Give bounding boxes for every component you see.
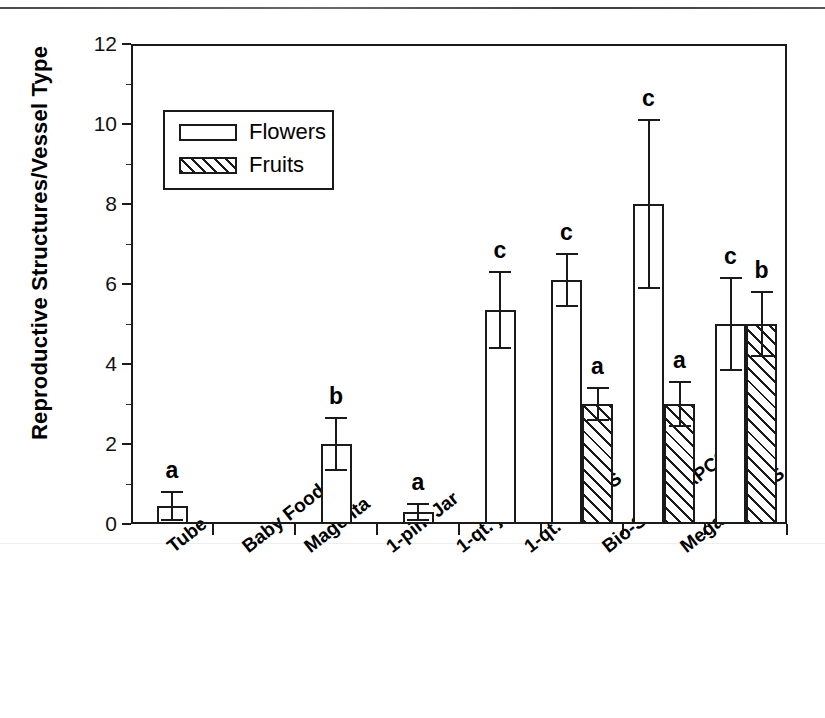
error-bar-cap-lower: [587, 419, 609, 421]
error-bar-cap-upper: [556, 253, 578, 255]
x-axis-tick: [294, 524, 296, 535]
y-axis-tick-label: 8: [83, 193, 117, 214]
y-axis-tick-label: 4: [83, 353, 117, 374]
y-axis-tick: [122, 443, 131, 445]
y-axis-tick-label: 10: [83, 113, 117, 134]
y-axis-tick: [122, 523, 131, 525]
legend-swatch-fruits: [179, 157, 237, 174]
error-bar-stem: [648, 120, 650, 288]
x-axis-tick: [212, 524, 214, 535]
y-axis-tick-label: 6: [83, 273, 117, 294]
error-bar-cap-upper: [587, 387, 609, 389]
error-bar-cap-upper: [161, 491, 183, 493]
error-bar-cap-upper: [489, 271, 511, 273]
error-bar-cap-lower: [638, 287, 660, 289]
scan-artifact-top-line: [0, 7, 825, 9]
chart-legend: Flowers Fruits: [163, 110, 334, 190]
y-axis-tick-label: 2: [83, 433, 117, 454]
significance-letter: b: [747, 259, 777, 282]
y-axis-title: Reproductive Structures/Vessel Type: [27, 0, 53, 493]
significance-letter: a: [403, 471, 433, 494]
error-bar-cap-upper: [720, 277, 742, 279]
y-axis-tick: [122, 123, 131, 125]
legend-label-flowers: Flowers: [249, 121, 326, 143]
significance-letter: c: [552, 221, 582, 244]
legend-label-fruits: Fruits: [249, 154, 304, 176]
significance-letter: c: [634, 87, 664, 110]
error-bar-stem: [566, 254, 568, 306]
error-bar-stem: [171, 492, 173, 520]
error-bar-cap-upper: [751, 291, 773, 293]
error-bar-cap-lower: [489, 347, 511, 349]
error-bar-stem: [417, 504, 419, 520]
error-bar-cap-lower: [720, 369, 742, 371]
y-axis-tick: [122, 283, 131, 285]
legend-item-flowers: Flowers: [179, 121, 326, 143]
x-axis-tick: [376, 524, 378, 535]
y-axis-tick-label: 0: [83, 513, 117, 534]
error-bar-cap-lower: [751, 355, 773, 357]
error-bar-stem: [679, 382, 681, 426]
significance-letter: c: [716, 245, 746, 268]
y-axis-tick: [122, 363, 131, 365]
error-bar-stem: [499, 272, 501, 348]
error-bar-stem: [730, 278, 732, 370]
y-axis-tick: [122, 43, 131, 45]
y-axis-tick: [122, 203, 131, 205]
error-bar-stem: [335, 418, 337, 470]
significance-letter: a: [665, 349, 695, 372]
error-bar-cap-lower: [325, 469, 347, 471]
error-bar-cap-upper: [325, 417, 347, 419]
bar-fruits-1-qt-w-apcs: [582, 404, 613, 524]
error-bar-cap-upper: [407, 503, 429, 505]
error-bar-stem: [761, 292, 763, 356]
legend-item-fruits: Fruits: [179, 154, 304, 176]
error-bar-cap-lower: [407, 519, 429, 521]
y-axis-tick-label: 12: [83, 33, 117, 54]
legend-swatch-flowers: [179, 124, 237, 141]
significance-letter: b: [321, 385, 351, 408]
significance-letter: a: [583, 355, 613, 378]
error-bar-cap-upper: [669, 381, 691, 383]
error-bar-cap-lower: [161, 519, 183, 521]
significance-letter: a: [157, 459, 187, 482]
error-bar-cap-upper: [638, 119, 660, 121]
bar-flowers-1-qt-w-apcs: [551, 280, 582, 524]
x-axis-tick: [786, 524, 788, 535]
error-bar-cap-lower: [556, 305, 578, 307]
significance-letter: c: [485, 239, 515, 262]
error-bar-cap-lower: [669, 425, 691, 427]
error-bar-stem: [597, 388, 599, 420]
